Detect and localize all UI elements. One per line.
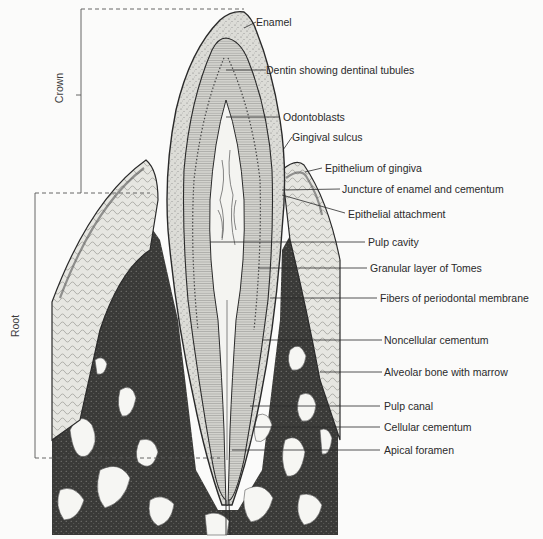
label-dentin: Dentin showing dentinal tubules [266, 64, 414, 76]
label-gingival-sulcus: Gingival sulcus [292, 131, 363, 143]
label-cellular-cementum: Cellular cementum [384, 421, 472, 433]
label-epithelial-attachment: Epithelial attachment [348, 208, 445, 220]
crown-label: Crown [53, 73, 65, 103]
label-periodontal-fibers: Fibers of periodontal membrane [380, 292, 529, 304]
root-label: Root [9, 315, 21, 337]
label-alveolar-bone: Alveolar bone with marrow [384, 366, 508, 378]
label-enamel: Enamel [256, 16, 292, 28]
label-pulp-cavity: Pulp cavity [368, 236, 419, 248]
label-epithelium-gingiva: Epithelium of gingiva [325, 162, 422, 174]
label-juncture: Juncture of enamel and cementum [342, 183, 504, 195]
label-pulp-canal: Pulp canal [384, 400, 433, 412]
tooth-diagram: Crown Root Enamel Dentin showing dentina… [0, 0, 543, 539]
label-odontoblasts: Odontoblasts [283, 111, 345, 123]
label-granular-layer: Granular layer of Tomes [370, 262, 482, 274]
label-apical-foramen: Apical foramen [384, 444, 454, 456]
label-noncellular-cementum: Noncellular cementum [384, 334, 488, 346]
